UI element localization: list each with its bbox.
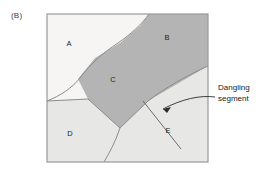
figure-panel-b: (B)	[0, 0, 267, 176]
callout-line-1: Dangling	[218, 83, 250, 94]
dangling-segment-callout: Dangling segment	[218, 83, 250, 104]
map-regions-group: A B C D E	[47, 14, 208, 162]
region-label-c: C	[110, 75, 116, 84]
callout-line-2: segment	[218, 94, 250, 105]
region-label-d: D	[67, 129, 73, 138]
region-label-e: E	[165, 126, 170, 135]
region-label-a: A	[66, 39, 71, 48]
region-label-b: B	[164, 33, 169, 42]
